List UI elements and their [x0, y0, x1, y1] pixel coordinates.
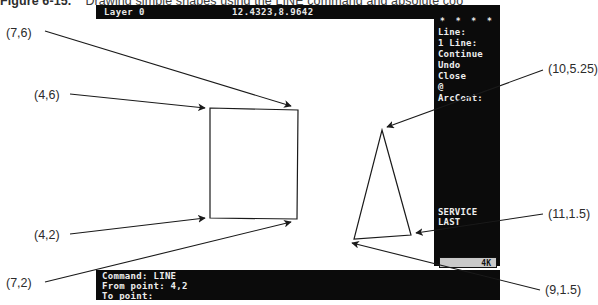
- annotation-label-11-15: (11,1.5): [548, 207, 590, 221]
- status-layer-label: Layer 0: [104, 5, 145, 19]
- annotation-label-7-6: (7,6): [6, 26, 32, 40]
- command-line-1: Command: LINE: [96, 271, 500, 281]
- screen-menu-item-arccont[interactable]: ArcCont:: [434, 93, 500, 104]
- screen-menu-item-undo[interactable]: Undo: [434, 60, 500, 71]
- annotation-label-9-15: (9,1.5): [545, 283, 581, 297]
- screen-menu-item-at[interactable]: @: [434, 82, 500, 93]
- screen-menu-stars[interactable]: * * * *: [434, 16, 500, 27]
- screen-menu-item-last[interactable]: LAST: [434, 217, 460, 228]
- annotation-label-4-2: (4,2): [34, 228, 60, 242]
- screen-menu-panel[interactable]: ADDAutoCAD * * * * Line: 1 Line: Continu…: [434, 5, 500, 266]
- memory-indicator: 4K: [439, 257, 497, 268]
- annotation-label-7-2: (7,2): [6, 276, 32, 290]
- drawing-canvas[interactable]: [96, 19, 434, 266]
- command-line-2: From point: 4,2: [96, 281, 500, 291]
- screen-menu-item-line[interactable]: Line:: [434, 27, 500, 38]
- screen-menu-item-1line[interactable]: 1 Line:: [434, 38, 500, 49]
- screen-menu-item-close[interactable]: Close: [434, 71, 500, 82]
- command-line-3: To point:: [96, 291, 500, 301]
- figure-number: Figure 6-15.: [0, 0, 71, 8]
- screen-menu-item-continue[interactable]: Continue: [434, 49, 500, 60]
- annotation-label-10-525: (10,5.25): [548, 62, 598, 76]
- status-coordinate-readout: 12.4323,8.9642: [232, 5, 313, 19]
- autocad-screen: Layer 0 12.4323,8.9642 ADDAutoCAD ADDAut…: [96, 5, 500, 295]
- command-window[interactable]: Command: LINE From point: 4,2 To point:: [96, 270, 500, 300]
- annotation-label-4-6: (4,6): [34, 88, 60, 102]
